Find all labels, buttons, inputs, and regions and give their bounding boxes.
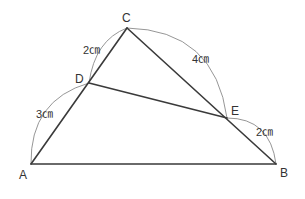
measurement-eb: 2㎝ [256, 126, 273, 138]
measurement-ad: 3㎝ [36, 108, 53, 120]
vertex-label-e: E [231, 104, 239, 118]
triangle-diagram: C D A B E 2㎝ 4㎝ 3㎝ 2㎝ [0, 0, 305, 199]
measurement-ce: 4㎝ [192, 53, 209, 65]
measurement-cd: 2㎝ [83, 44, 100, 56]
segment-bc [127, 28, 276, 164]
vertex-label-c: C [122, 11, 131, 25]
vertex-label-b: B [280, 166, 288, 180]
segment-ac [31, 28, 127, 164]
vertex-label-a: A [19, 168, 27, 182]
vertex-label-d: D [75, 72, 84, 86]
